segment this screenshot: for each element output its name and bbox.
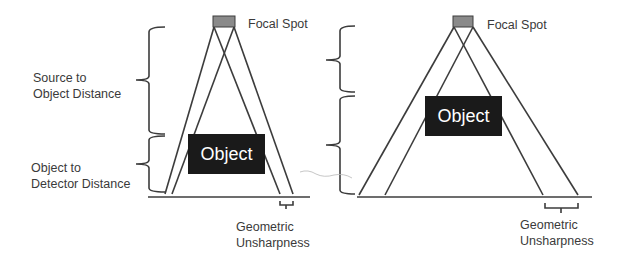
brace-source-to-object [136,27,165,134]
right-focal-spot [453,16,473,27]
source-to-object-label: Source to Object Distance [33,70,121,102]
right-geometric-line2: Unsharpness [520,233,594,249]
right-geometric-unsharpness-label: Geometric Unsharpness [520,217,594,249]
right-geometric-line1: Geometric [520,217,594,233]
left-geometric-unsharpness-label: Geometric Unsharpness [236,219,310,251]
source-to-object-line2: Object Distance [33,86,121,102]
object-to-detector-line1: Object to [31,160,130,176]
object-to-detector-line2: Detector Distance [31,176,130,192]
right-brace-top [326,26,355,92]
left-unsharpness-bracket [280,201,293,209]
left-object-label: Object [188,144,265,165]
left-geometric-line1: Geometric [236,219,310,235]
right-brace-bottom [326,96,355,194]
object-to-detector-label: Object to Detector Distance [31,160,130,192]
left-diagram [136,27,310,209]
left-focal-spot [213,16,235,27]
scribble-mark [300,171,352,178]
right-object-label: Object [425,106,502,127]
right-unsharpness-bracket [545,203,578,213]
left-focal-spot-label: Focal Spot [248,16,308,32]
left-geometric-line2: Unsharpness [236,235,310,251]
brace-object-to-detector [136,136,165,192]
source-to-object-line1: Source to [33,70,121,86]
right-focal-spot-label: Focal Spot [487,17,547,33]
